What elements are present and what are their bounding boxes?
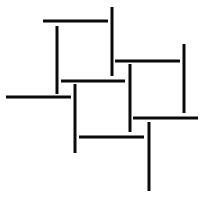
background: [0, 0, 209, 203]
line-segment-diagram: [0, 0, 209, 203]
